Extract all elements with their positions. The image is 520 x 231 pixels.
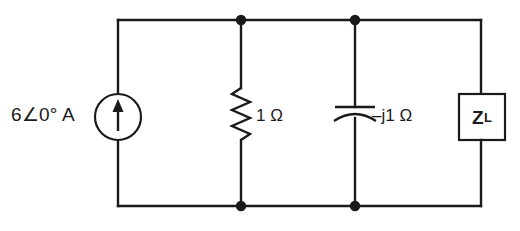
resistor-label: 1 Ω (256, 107, 283, 124)
circuit-diagram: 6∠0° A 1 Ω –j1 Ω ZL (0, 0, 520, 231)
current-source-label: 6∠0° A (11, 105, 75, 124)
node-dot-top-capacitor (350, 15, 360, 25)
resistor-zigzag (232, 88, 250, 140)
load-impedance-subscript: L (484, 111, 492, 124)
load-impedance-label: ZL (459, 94, 505, 140)
capacitor-label: –j1 Ω (372, 107, 412, 124)
node-dot-bottom-resistor (236, 201, 246, 211)
node-dot-bottom-capacitor (350, 201, 360, 211)
node-dot-top-resistor (236, 15, 246, 25)
load-impedance-symbol: Z (472, 108, 484, 127)
